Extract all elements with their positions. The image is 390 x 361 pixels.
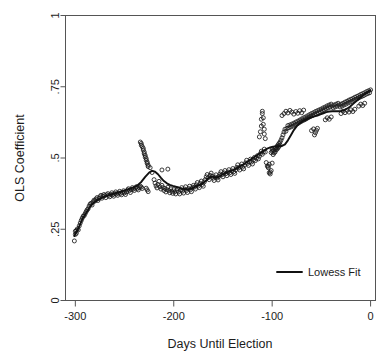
x-axis-tick-labels: -300-200-1000 bbox=[64, 310, 373, 322]
y-tick-label: .5 bbox=[49, 153, 61, 162]
y-tick-label: 1 bbox=[49, 12, 61, 18]
data-point bbox=[262, 127, 266, 131]
plot-frame bbox=[66, 16, 376, 301]
x-tick-label: -300 bbox=[64, 310, 86, 322]
y-axis-tick-labels: 0.25.5.751 bbox=[49, 12, 61, 303]
y-tick-label: .25 bbox=[49, 222, 61, 237]
chart-figure: 0.25.5.751 -300-200-1000 Lowess Fit Days… bbox=[0, 0, 390, 361]
x-axis-title: Days Until Election bbox=[168, 337, 273, 351]
data-point bbox=[166, 167, 170, 171]
data-point bbox=[258, 130, 262, 134]
legend-entry-label: Lowess Fit bbox=[308, 266, 361, 278]
scatter-plot: 0.25.5.751 -300-200-1000 Lowess Fit Days… bbox=[0, 0, 390, 361]
y-axis-title: OLS Coefficient bbox=[13, 114, 27, 202]
x-tick-label: 0 bbox=[368, 310, 374, 322]
y-tick-label: 0 bbox=[49, 297, 61, 303]
x-axis-ticks bbox=[75, 301, 370, 307]
legend: Lowess Fit bbox=[277, 266, 361, 278]
y-axis-ticks bbox=[61, 16, 66, 301]
x-tick-label: -100 bbox=[261, 310, 283, 322]
data-point bbox=[160, 168, 164, 172]
lowess-fit-line bbox=[74, 90, 370, 236]
data-point bbox=[72, 239, 76, 243]
data-point bbox=[262, 132, 266, 136]
data-point bbox=[257, 135, 261, 139]
x-tick-label: -200 bbox=[163, 310, 185, 322]
data-point bbox=[263, 137, 267, 141]
y-tick-label: .75 bbox=[49, 79, 61, 94]
